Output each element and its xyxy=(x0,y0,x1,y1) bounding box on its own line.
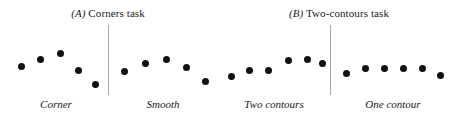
panel-a-letter: (A) xyxy=(71,7,85,19)
panel-b-letter: (B) xyxy=(289,7,303,19)
stimulus-dot xyxy=(163,56,170,63)
stimulus-dot xyxy=(343,70,350,77)
panel-a-divider xyxy=(108,25,109,95)
condition-label-corner: Corner xyxy=(8,97,104,111)
stimulus-group-smooth xyxy=(113,38,213,94)
stimulus-dot xyxy=(362,65,369,72)
stimulus-dot xyxy=(92,81,99,88)
stimulus-group-corner xyxy=(8,38,104,94)
condition-label-smooth: Smooth xyxy=(113,97,213,111)
stimulus-dot xyxy=(57,50,64,57)
condition-label-one-contour: One contour xyxy=(337,97,449,111)
stimulus-dot xyxy=(18,63,25,70)
panel-b-title: (B) Two-contours task xyxy=(222,7,456,20)
stimulus-dot xyxy=(265,67,272,74)
panel-b-divider xyxy=(330,25,331,95)
stimulus-dot xyxy=(319,60,326,67)
stimulus-dot xyxy=(202,78,209,85)
stimulus-dot xyxy=(142,60,149,67)
condition-label-two-contours: Two contours xyxy=(222,97,326,111)
stimulus-dot xyxy=(228,73,235,80)
figure-container: (A) Corners task (B) Two-contours task C… xyxy=(0,0,456,118)
stimulus-dot xyxy=(437,72,444,79)
stimulus-dot xyxy=(121,68,128,75)
stimulus-dot xyxy=(304,56,311,63)
stimulus-dot xyxy=(400,65,407,72)
stimulus-dot xyxy=(285,57,292,64)
stimulus-dot xyxy=(183,64,190,71)
stimulus-group-one-contour xyxy=(337,38,449,94)
stimulus-dot xyxy=(37,56,44,63)
stimulus-dot xyxy=(75,67,82,74)
panel-a-title-text: Corners task xyxy=(86,7,145,19)
panel-b-title-text: Two-contours task xyxy=(303,7,389,19)
stimulus-dot xyxy=(246,67,253,74)
stimulus-dot xyxy=(419,65,426,72)
stimulus-group-two-contours xyxy=(222,38,326,94)
panel-a-title: (A) Corners task xyxy=(0,7,216,20)
stimulus-dot xyxy=(381,65,388,72)
